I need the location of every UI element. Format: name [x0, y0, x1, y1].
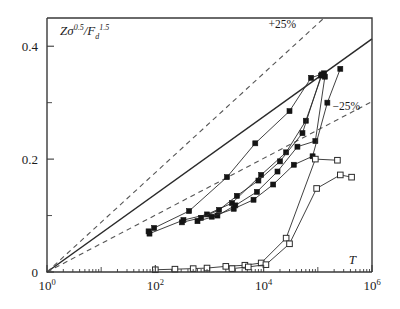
- data-point-filled-series-1-6: [309, 75, 314, 80]
- chart-canvas: 00.20.4100102104106Zσ0.5/Fd1.5T+25%−25%: [0, 0, 400, 309]
- data-point-filled-series-3-5: [277, 159, 282, 164]
- series-line-filled-series-5: [212, 69, 341, 217]
- data-point-filled-series-1-3: [224, 175, 229, 180]
- reference-line-minus-25-percent: [47, 102, 372, 272]
- data-point-open-series-1-9: [335, 157, 341, 163]
- series-filled-series-4: [195, 74, 327, 224]
- data-point-open-series-2-1: [245, 264, 251, 270]
- data-point-open-series-2-4: [314, 186, 320, 192]
- data-point-filled-series-4-3: [254, 189, 259, 194]
- figure-container: 00.20.4100102104106Zσ0.5/Fd1.5T+25%−25%: [0, 0, 400, 309]
- data-point-filled-series-4-7: [322, 74, 327, 79]
- reference-line-plus-25-percent: [47, 18, 324, 272]
- data-series-layer: [146, 66, 354, 272]
- y-tick-label-1: 0.2: [22, 152, 38, 167]
- x-tick-label-1: 102: [147, 277, 164, 293]
- data-point-filled-series-1-5: [287, 109, 292, 114]
- x-tick-label-0: 100: [38, 277, 55, 293]
- data-point-open-series-1-7: [283, 235, 289, 241]
- data-point-open-series-2-5: [338, 172, 344, 178]
- data-point-filled-series-5-3: [271, 182, 276, 187]
- data-point-open-series-2-6: [349, 174, 355, 180]
- data-point-filled-series-1-4: [253, 141, 258, 146]
- annotation-minus-25: −25%: [332, 100, 360, 112]
- data-point-filled-series-5-0: [209, 214, 214, 219]
- data-point-filled-series-5-2: [251, 197, 256, 202]
- axes-layer: [47, 18, 372, 272]
- axis-left-bottom: [47, 18, 372, 272]
- data-point-filled-series-4-0: [195, 219, 200, 224]
- series-open-series-1: [153, 156, 341, 272]
- y-axis-title: Zσ0.5/Fd1.5: [60, 23, 109, 41]
- data-point-filled-series-1-2: [187, 209, 192, 214]
- data-point-filled-series-3-4: [256, 178, 261, 183]
- data-point-filled-series-3-6: [300, 131, 305, 136]
- data-point-filled-series-5-6: [325, 100, 330, 105]
- x-tick-label-2: 104: [255, 277, 273, 293]
- data-point-filled-series-3-2: [217, 207, 222, 212]
- reference-lines-layer: [47, 18, 372, 272]
- data-point-open-series-1-1: [172, 266, 178, 272]
- annotation-plus-25: +25%: [268, 18, 296, 30]
- series-line-filled-series-4: [197, 77, 324, 222]
- data-point-filled-series-3-3: [234, 193, 239, 198]
- data-point-filled-series-2-0: [147, 231, 152, 236]
- data-point-filled-series-5-4: [291, 162, 296, 167]
- y-tick-label-0: 0: [32, 265, 39, 280]
- x-axis-title: T: [349, 252, 357, 267]
- data-point-open-series-1-8: [313, 156, 319, 162]
- x-tick-label-3: 106: [363, 277, 380, 293]
- data-point-filled-series-5-1: [231, 206, 236, 211]
- axis-top-right: [47, 18, 372, 272]
- data-point-filled-series-4-5: [295, 144, 300, 149]
- y-tick-label-2: 0.4: [22, 39, 39, 54]
- data-point-filled-series-5-7: [338, 66, 343, 71]
- data-point-filled-series-1-1: [152, 225, 157, 230]
- data-point-filled-series-3-0: [179, 220, 184, 225]
- data-point-filled-series-4-4: [275, 169, 280, 174]
- data-point-open-series-2-3: [287, 241, 293, 247]
- data-point-open-series-2-0: [229, 266, 235, 272]
- data-point-open-series-1-4: [223, 264, 229, 270]
